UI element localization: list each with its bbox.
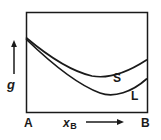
y-axis-arrow	[11, 40, 17, 74]
y-axis-label-g: g	[7, 78, 15, 91]
curve-label-solid: S	[113, 72, 121, 84]
plot-frame	[27, 13, 148, 113]
x-axis-label-subscript: B	[70, 121, 77, 131]
curve-solid-phase	[27, 38, 147, 77]
x-axis-start-label-A: A	[24, 117, 33, 129]
curve-liquid-phase	[27, 40, 147, 95]
free-energy-diagram: g A B xB S L	[0, 0, 161, 140]
curve-label-liquid: L	[131, 90, 138, 102]
x-axis-label-xb: xB	[63, 117, 77, 131]
x-axis-end-label-B: B	[141, 117, 150, 129]
x-axis-arrow	[86, 119, 124, 125]
x-axis-label-main: x	[63, 116, 70, 130]
